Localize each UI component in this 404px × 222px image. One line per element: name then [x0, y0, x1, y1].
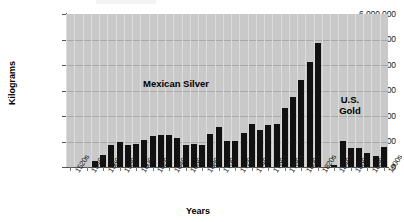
x-tick-mark [235, 167, 236, 171]
x-tick-mark [103, 167, 104, 171]
x-tick-label: 1900s [387, 154, 404, 175]
vertical-gridline [355, 14, 356, 167]
vertical-gridline [91, 14, 92, 167]
annotation-us-gold: U.S. Gold [330, 94, 370, 116]
x-tick-mark [301, 167, 302, 171]
vertical-gridline [83, 14, 84, 167]
x-tick-mark [70, 167, 71, 171]
clipped-title-artifact [96, 0, 156, 4]
vertical-gridline [330, 14, 331, 167]
bar [307, 62, 313, 167]
x-tick-mark [334, 167, 335, 171]
x-tick-mark [268, 167, 269, 171]
vertical-gridline [107, 14, 108, 167]
vertical-gridline [363, 14, 364, 167]
vertical-gridline [66, 14, 67, 167]
y-axis-title: Kilograms [7, 47, 17, 119]
horizontal-gridline [66, 91, 388, 92]
plot-area [66, 14, 388, 167]
vertical-gridline [371, 14, 372, 167]
bar [315, 43, 321, 167]
vertical-gridline [74, 14, 75, 167]
vertical-gridline [347, 14, 348, 167]
annotation-us-gold-line1: U.S. [330, 94, 370, 105]
x-tick-mark [136, 167, 137, 171]
vertical-gridline [380, 14, 381, 167]
vertical-gridline [322, 14, 323, 167]
annotation-mexican-silver: Mexican Silver [124, 78, 228, 89]
x-tick-mark [202, 167, 203, 171]
annotation-us-gold-line2: Gold [330, 105, 370, 116]
vertical-gridline [99, 14, 100, 167]
x-tick-mark [169, 167, 170, 171]
horizontal-gridline [66, 116, 388, 117]
horizontal-gridline [66, 40, 388, 41]
x-axis-title: Years [0, 206, 396, 216]
x-tick-mark [367, 167, 368, 171]
horizontal-gridline [66, 65, 388, 66]
